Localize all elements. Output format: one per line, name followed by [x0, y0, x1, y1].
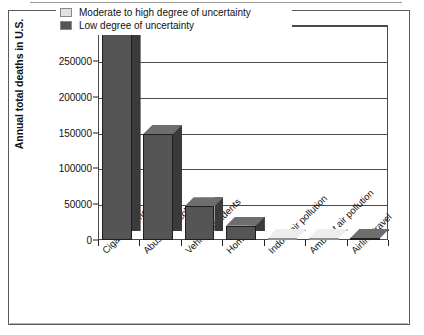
figure-canvas: Annual total deaths in U.S. 050000100000… — [0, 0, 424, 335]
x-tick-mark — [222, 240, 223, 246]
y-tick-label: 250000 — [30, 55, 92, 66]
legend-swatch-icon — [60, 8, 72, 17]
x-tick-mark — [264, 240, 265, 246]
y-tick-label: 50000 — [30, 199, 92, 210]
x-tick-mark — [347, 240, 348, 246]
bar-front-face — [268, 238, 298, 240]
legend-swatch-icon — [60, 21, 72, 30]
bar-cigarette-smoking[interactable] — [102, 16, 132, 240]
y-tick-label: 0 — [30, 235, 92, 246]
bar-ambient-air-pollution[interactable] — [309, 229, 339, 240]
bar-vehicle-accidents[interactable] — [185, 197, 215, 240]
bar-front-face — [143, 134, 173, 240]
y-axis-title: Annual total deaths in U.S. — [13, 0, 25, 169]
bar-indoor-air-pollution[interactable] — [268, 229, 298, 240]
legend-label: Moderate to high degree of uncertainty — [79, 7, 251, 18]
bar-abuse-of-alcohol[interactable] — [143, 125, 173, 240]
bar-top-face — [268, 229, 307, 238]
y-tick-label: 100000 — [30, 163, 92, 174]
y-tick-label: 150000 — [30, 127, 92, 138]
bar-top-face — [350, 229, 389, 238]
bar-side-face — [173, 125, 182, 231]
bottom-artifact-rule — [10, 323, 408, 324]
bar-front-face — [309, 238, 339, 240]
bar-side-face — [132, 16, 141, 231]
x-tick-mark — [305, 240, 306, 246]
y-tick-label: 200000 — [30, 91, 92, 102]
x-tick-mark — [139, 240, 140, 246]
x-tick-mark — [388, 240, 389, 246]
chart-legend: Moderate to high degree of uncertaintyLo… — [56, 3, 292, 35]
x-tick-mark — [98, 240, 99, 246]
bar-airline-travel[interactable] — [350, 229, 380, 240]
bar-front-face — [226, 226, 256, 240]
bar-front-face — [185, 206, 215, 240]
bar-homicide[interactable] — [226, 217, 256, 240]
x-tick-mark — [181, 240, 182, 246]
bar-front-face — [350, 238, 380, 240]
bar-front-face — [102, 25, 132, 240]
legend-label: Low degree of uncertainty — [79, 20, 194, 31]
legend-item[interactable]: Low degree of uncertainty — [60, 19, 290, 31]
x-axis: Cigarette smokingAbuse of alcoholVehicle… — [98, 240, 388, 330]
bar-series-group — [98, 25, 388, 240]
legend-item[interactable]: Moderate to high degree of uncertainty — [60, 6, 290, 18]
bar-top-face — [309, 229, 348, 238]
